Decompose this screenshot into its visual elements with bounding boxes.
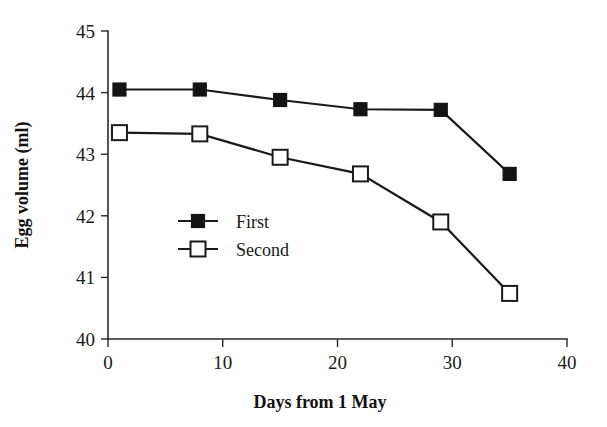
data-point-marker <box>273 150 288 165</box>
line-chart: 404142434445 010203040 FirstSecond Days … <box>0 0 607 427</box>
x-tick-label: 10 <box>213 352 232 373</box>
chart-legend: FirstSecond <box>178 212 289 260</box>
data-point-marker <box>192 126 207 141</box>
data-point-marker <box>433 214 448 229</box>
y-tick-label: 43 <box>76 144 95 165</box>
legend-label: First <box>236 212 269 232</box>
x-tick-label: 40 <box>558 352 577 373</box>
data-point-marker <box>113 83 126 96</box>
data-series-group <box>112 83 517 301</box>
series-line <box>119 133 509 294</box>
y-tick-label: 42 <box>76 206 95 227</box>
data-point-marker <box>112 125 127 140</box>
chart-container: 404142434445 010203040 FirstSecond Days … <box>0 0 607 427</box>
y-tick-label: 45 <box>76 21 95 42</box>
data-point-marker <box>193 83 206 96</box>
data-point-marker <box>274 93 287 106</box>
x-axis-ticks: 010203040 <box>103 339 576 373</box>
legend-marker <box>191 242 206 257</box>
x-tick-label: 20 <box>328 352 347 373</box>
data-point-marker <box>503 167 516 180</box>
legend-marker <box>192 215 205 228</box>
y-tick-label: 44 <box>76 83 96 104</box>
series-first <box>113 83 516 180</box>
y-axis-ticks: 404142434445 <box>76 21 108 350</box>
data-point-marker <box>353 166 368 181</box>
y-tick-label: 40 <box>76 329 95 350</box>
data-point-marker <box>502 286 517 301</box>
legend-label: Second <box>236 240 289 260</box>
x-tick-label: 0 <box>103 352 113 373</box>
x-tick-label: 30 <box>443 352 462 373</box>
y-axis-title: Egg volume (ml) <box>12 122 33 249</box>
x-axis-title: Days from 1 May <box>253 392 386 412</box>
data-point-marker <box>354 103 367 116</box>
data-point-marker <box>434 103 447 116</box>
y-tick-label: 41 <box>76 267 95 288</box>
series-second <box>112 125 517 301</box>
series-line <box>119 90 509 174</box>
